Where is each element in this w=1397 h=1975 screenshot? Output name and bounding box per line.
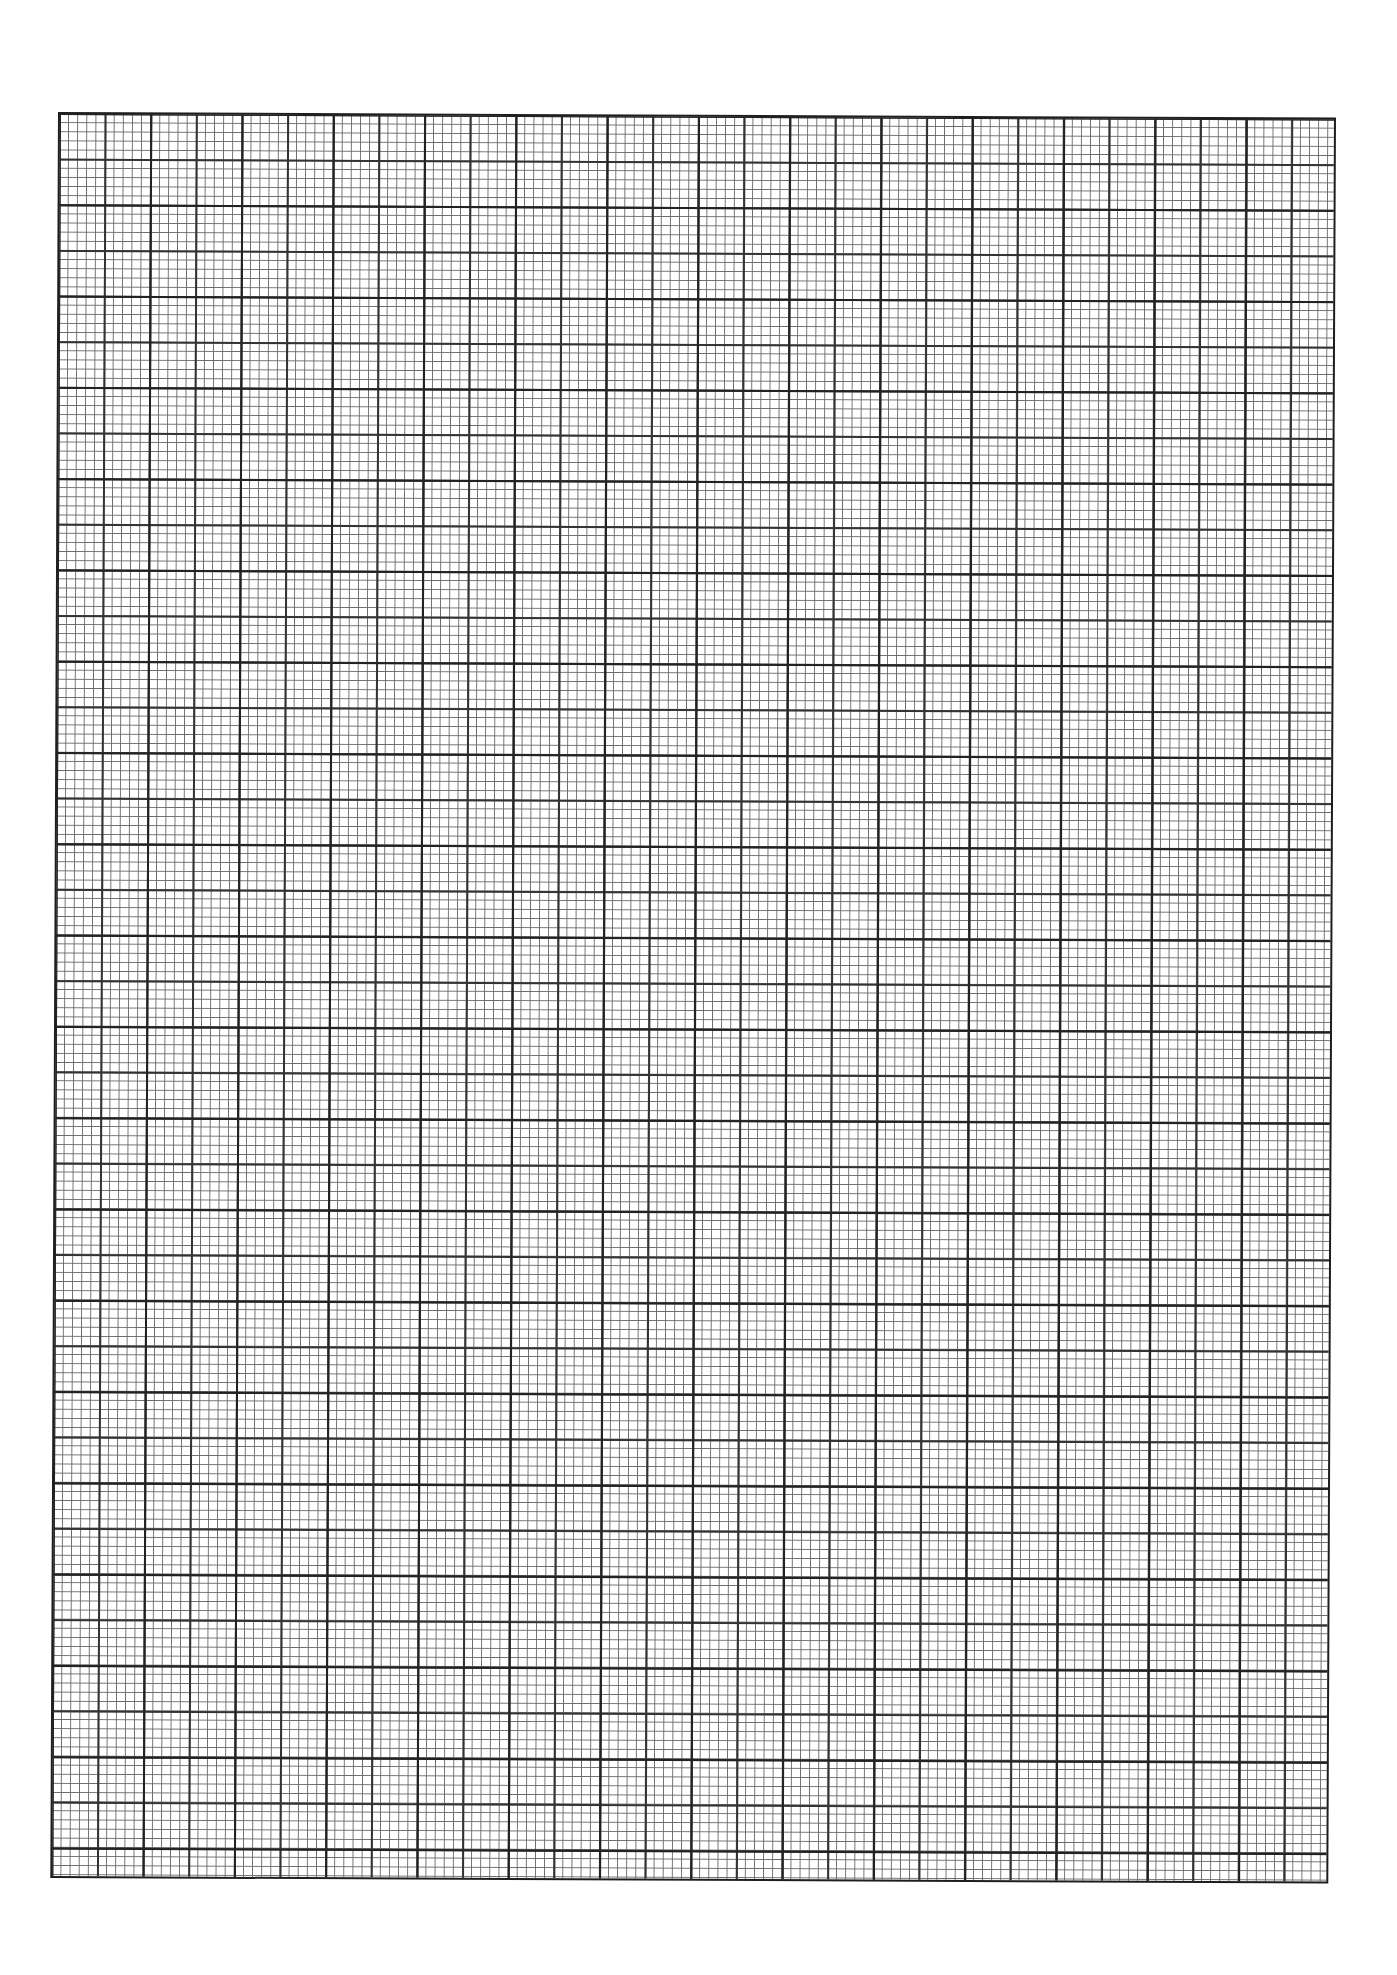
- graph-paper-grid: [50, 112, 1336, 1884]
